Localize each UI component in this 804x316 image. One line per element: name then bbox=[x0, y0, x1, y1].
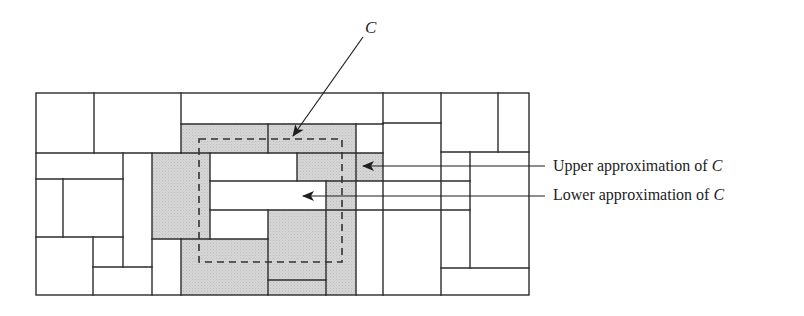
upper-label-set: C bbox=[712, 157, 723, 174]
shaded-cell bbox=[268, 210, 326, 295]
rough-set-diagram: C Upper approximation of C Lower approxi… bbox=[0, 0, 804, 316]
shaded-cell bbox=[181, 239, 268, 295]
set-c-arrow bbox=[293, 37, 363, 136]
upper-approximation-label: Upper approximation of C bbox=[553, 157, 723, 175]
lower-approximation-label: Lower approximation of C bbox=[553, 186, 724, 204]
shaded-cell bbox=[152, 153, 210, 239]
shaded-cell bbox=[297, 153, 383, 181]
lower-label-text: Lower approximation of bbox=[553, 186, 713, 204]
lower-label-set: C bbox=[713, 186, 724, 203]
shaded-cell bbox=[326, 181, 356, 295]
upper-label-text: Upper approximation of bbox=[553, 157, 712, 175]
set-c-label: C bbox=[365, 18, 377, 37]
